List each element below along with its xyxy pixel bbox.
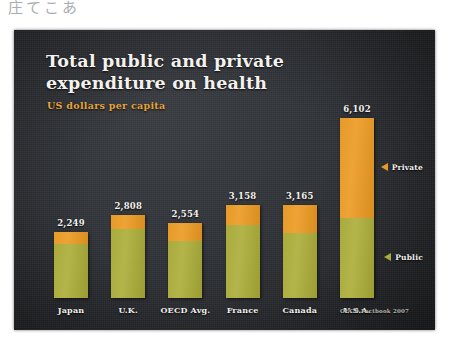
bar-column-france: 3,158France — [226, 191, 260, 298]
bar-stack — [168, 223, 202, 298]
presentation-slide: Total public and private expenditure on … — [14, 30, 435, 330]
bar-value-label: 2,554 — [172, 209, 200, 219]
triangle-left-icon-private — [381, 163, 388, 171]
category-label: France — [227, 305, 259, 315]
bar-column-japan: 2,249Japan — [54, 218, 88, 298]
bar-segment-public — [340, 218, 374, 298]
bar-segment-private — [340, 118, 374, 218]
chart-plot-area: 2,249Japan2,808U.K.2,554OECD Avg.3,158Fr… — [54, 118, 374, 298]
bar-segment-private — [168, 223, 202, 242]
bar-value-label: 3,158 — [229, 191, 257, 201]
legend-label-private: Private — [392, 163, 423, 172]
bar-stack — [226, 205, 260, 298]
bar-value-label: 2,808 — [114, 201, 142, 211]
legend-label-public: Public — [395, 253, 423, 262]
category-label: U.K. — [118, 305, 138, 315]
legend-item-public: Public — [384, 253, 423, 262]
bar-column-u-k: 2,808U.K. — [111, 201, 145, 298]
bar-value-label: 6,102 — [343, 104, 371, 114]
bar-segment-public — [283, 233, 317, 298]
bar-segment-public — [226, 225, 260, 298]
page-caption: 庄てこあ — [8, 0, 80, 17]
bar-column-canada: 3,165Canada — [283, 191, 317, 298]
chart-subtitle: US dollars per capita — [47, 100, 166, 111]
bar-value-label: 3,165 — [286, 191, 314, 201]
bar-segment-public — [111, 229, 145, 298]
bar-segment-private — [54, 232, 88, 244]
category-label: Japan — [58, 305, 85, 315]
chart-source-credit: OECD Factbook 2007 — [340, 308, 409, 314]
bar-segment-private — [111, 215, 145, 229]
bar-stack — [111, 215, 145, 298]
bar-stack — [340, 118, 374, 298]
bar-stack — [54, 232, 88, 298]
bar-segment-public — [54, 244, 88, 298]
bar-column-u-s-a: 6,102U.S.A. — [340, 104, 374, 298]
bar-segment-private — [226, 205, 260, 226]
chart-title: Total public and private expenditure on … — [46, 50, 346, 95]
bar-segment-public — [168, 241, 202, 298]
category-label: Canada — [283, 305, 318, 315]
bar-stack — [283, 205, 317, 298]
bar-column-oecd-avg: 2,554OECD Avg. — [168, 209, 202, 298]
bar-segment-private — [283, 205, 317, 233]
triangle-left-icon-public — [384, 253, 391, 261]
legend-item-private: Private — [381, 163, 423, 172]
bar-value-label: 2,249 — [57, 218, 85, 228]
category-label: OECD Avg. — [160, 305, 210, 315]
